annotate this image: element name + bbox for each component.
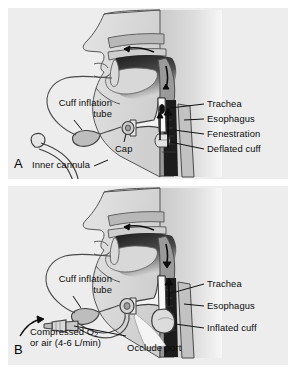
label-cuff-inflation-tube-line1: Cuff inflation <box>30 274 112 285</box>
panel-b-letter: B <box>14 342 23 357</box>
label-esophagus: Esophagus <box>207 114 255 125</box>
label-compressed-gas-text: Compressed O <box>30 326 94 337</box>
label-trachea: Trachea <box>207 279 242 290</box>
figure-caption-fragment <box>8 370 288 381</box>
label-cuff-inflation-tube-line1: Cuff inflation <box>30 98 112 109</box>
label-cap: Cap <box>115 144 133 155</box>
label-trachea: Trachea <box>207 99 242 110</box>
panel-b: B Cuff inflation tube Compressed O2 or a… <box>8 186 288 365</box>
label-occlude-port: Occlude port <box>127 343 181 354</box>
label-compressed-gas-line2: or air (4-6 L/min) <box>30 338 101 349</box>
figure-tracheostomy: A Cuff inflation tube Inner cannula Cap … <box>0 0 296 381</box>
panel-a: A Cuff inflation tube Inner cannula Cap … <box>8 8 288 179</box>
panel-a-letter: A <box>14 156 23 171</box>
label-cuff-inflation-tube-line2: tube <box>30 285 112 296</box>
label-deflated-cuff: Deflated cuff <box>207 144 261 155</box>
label-cuff-inflation-tube-line2: tube <box>30 109 112 120</box>
label-esophagus: Esophagus <box>207 301 255 312</box>
label-inflated-cuff: Inflated cuff <box>207 323 257 334</box>
label-fenestration: Fenestration <box>207 129 260 140</box>
label-inner-cannula: Inner cannula <box>32 160 90 171</box>
